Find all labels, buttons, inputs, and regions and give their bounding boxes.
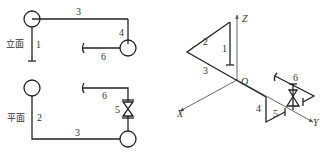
y-axis-label: Y bbox=[313, 117, 320, 128]
valve-icon bbox=[122, 100, 134, 118]
label-3: 3 bbox=[203, 65, 208, 76]
label-5: 5 bbox=[115, 104, 120, 115]
pipe-projection-diagram: 立面 1 3 4 6 平面 2 3 5 6 bbox=[0, 0, 322, 155]
x-axis bbox=[180, 80, 237, 111]
label-3: 3 bbox=[75, 127, 80, 138]
riser-circle-right bbox=[120, 131, 136, 147]
label-4: 4 bbox=[256, 103, 261, 114]
elevation-title: 立面 bbox=[6, 38, 24, 49]
label-2: 2 bbox=[37, 112, 42, 123]
z-axis-label: Z bbox=[242, 13, 248, 24]
label-6: 6 bbox=[293, 72, 298, 83]
label-6: 6 bbox=[101, 51, 106, 62]
riser-circle-left bbox=[24, 80, 40, 96]
label-5: 5 bbox=[273, 108, 278, 119]
plan-title: 平面 bbox=[7, 113, 25, 123]
label-2: 2 bbox=[203, 36, 208, 47]
label-1: 1 bbox=[222, 43, 227, 54]
label-1: 1 bbox=[36, 39, 41, 50]
label-3: 3 bbox=[76, 6, 81, 17]
x-axis-label: X bbox=[176, 108, 184, 119]
label-6: 6 bbox=[102, 90, 107, 101]
origin-label: O bbox=[241, 76, 248, 87]
label-4: 4 bbox=[119, 27, 124, 38]
